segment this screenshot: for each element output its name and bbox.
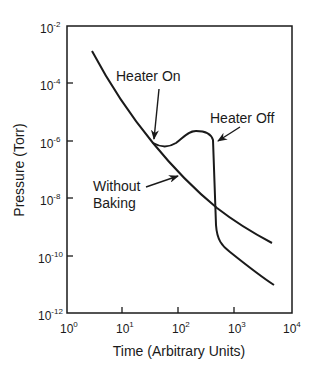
x-axis-ticks xyxy=(122,307,234,313)
svg-text:103: 103 xyxy=(228,320,246,336)
arrow-heater-off xyxy=(218,127,240,141)
svg-text:10-12: 10-12 xyxy=(38,307,63,323)
y-axis-tick-labels: 10-2 10-4 10-6 10-8 10-10 10-12 xyxy=(38,20,63,323)
svg-text:101: 101 xyxy=(116,320,134,336)
svg-text:10-10: 10-10 xyxy=(38,250,63,266)
annotation-without-baking-line2: Baking xyxy=(93,195,136,211)
svg-text:100: 100 xyxy=(60,320,78,336)
arrow-heater-on xyxy=(154,89,159,139)
svg-text:10-6: 10-6 xyxy=(40,135,61,151)
svg-text:10-2: 10-2 xyxy=(40,20,61,36)
svg-text:104: 104 xyxy=(283,320,301,336)
pressure-vs-time-chart: 10-2 10-4 10-6 10-8 10-10 10-12 100 101 … xyxy=(0,0,318,375)
svg-text:10-8: 10-8 xyxy=(40,192,61,208)
series-heater xyxy=(153,131,274,285)
x-axis-title: Time (Arbitrary Units) xyxy=(113,343,246,359)
y-axis-ticks xyxy=(67,83,73,256)
annotation-heater-on: Heater On xyxy=(116,68,181,84)
x-axis-tick-labels: 100 101 102 103 104 xyxy=(60,320,301,336)
svg-text:10-4: 10-4 xyxy=(40,77,61,93)
annotation-without-baking: Without xyxy=(93,178,141,194)
annotation-heater-off: Heater Off xyxy=(210,110,274,126)
svg-text:102: 102 xyxy=(172,320,190,336)
y-axis-title: Pressure (Torr) xyxy=(11,123,27,216)
arrow-without-baking xyxy=(146,176,178,187)
